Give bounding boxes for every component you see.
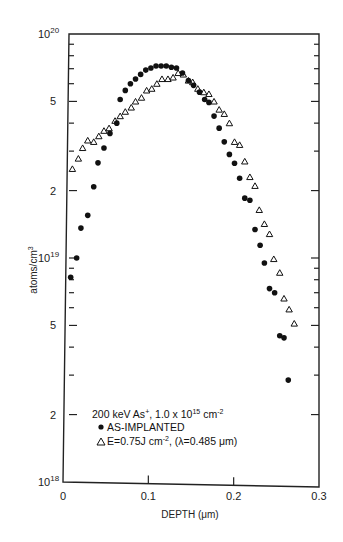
data-point-triangle (261, 221, 267, 227)
y-axis-title: atoms/cm3 (27, 246, 39, 293)
data-point-triangle (247, 174, 253, 180)
data-point-triangle (91, 139, 97, 145)
data-point-triangle (266, 231, 272, 237)
data-point-circle (128, 81, 134, 87)
dopant-depth-profile-chart: 1020521019521018 00.10.20.3 atoms/cm3 DE… (0, 0, 343, 542)
data-point-triangle (122, 109, 128, 115)
data-point-triangle (291, 321, 297, 327)
data-point-triangle (85, 137, 91, 143)
data-point-circle (221, 139, 227, 145)
x-tick-label: 0.1 (141, 490, 156, 502)
data-point-circle (143, 67, 149, 73)
data-point-circle (117, 97, 123, 103)
legend: 200 keV As+, 1.0 x 1015 cm-2 AS-IMPLANTE… (92, 408, 237, 447)
legend-laser-annealed: E=0.75J cm-2, (λ=0.485 μm) (107, 435, 237, 447)
x-tick-label: 0.2 (226, 490, 241, 502)
data-point-triangle (75, 156, 81, 162)
y-tick-label: 5 (50, 95, 56, 107)
series-as-implanted (68, 63, 291, 383)
y-tick-label: 1018 (38, 474, 60, 488)
legend-triangle-marker (97, 438, 105, 445)
data-point-triangle (271, 256, 277, 262)
data-point-circle (91, 184, 97, 190)
data-point-triangle (281, 295, 287, 301)
data-point-circle (138, 72, 144, 78)
data-point-triangle (138, 95, 144, 101)
data-point-triangle (132, 98, 138, 104)
data-point-triangle (256, 207, 262, 213)
data-point-triangle (128, 104, 134, 110)
y-tick-label: 1020 (38, 26, 60, 40)
data-point-circle (163, 63, 169, 69)
legend-header: 200 keV As+, 1.0 x 1015 cm-2 (92, 408, 223, 420)
data-point-triangle (211, 98, 217, 104)
data-point-triangle (277, 270, 283, 276)
data-point-circle (95, 160, 101, 166)
data-point-triangle (286, 306, 292, 312)
data-point-circle (169, 65, 175, 71)
y-tick-label: 5 (50, 319, 56, 331)
data-point-circle (257, 242, 263, 248)
data-point-circle (216, 125, 222, 131)
data-point-triangle (79, 145, 85, 151)
data-point-circle (285, 377, 291, 383)
data-point-circle (232, 160, 238, 166)
data-point-triangle (216, 107, 222, 113)
data-point-circle (74, 255, 80, 261)
y-tick-label: 1019 (38, 250, 60, 264)
data-point-circle (227, 152, 233, 158)
data-point-circle (158, 63, 164, 69)
x-tick-label: 0.3 (311, 490, 326, 502)
data-point-triangle (252, 183, 258, 189)
x-axis-ticks: 00.10.20.3 (60, 476, 327, 502)
data-point-circle (122, 88, 128, 94)
data-point-triangle (226, 120, 232, 126)
data-point-triangle (242, 158, 248, 164)
data-point-triangle (231, 139, 237, 145)
data-point-circle (85, 213, 91, 219)
legend-as-implanted: AS-IMPLANTED (107, 421, 185, 433)
data-point-circle (247, 197, 253, 203)
data-point-circle (78, 225, 84, 231)
data-point-triangle (69, 166, 75, 172)
data-point-circle (68, 275, 74, 281)
y-tick-label: 2 (50, 409, 56, 421)
data-point-circle (101, 145, 107, 151)
data-point-circle (272, 290, 278, 296)
data-point-circle (211, 113, 217, 119)
series-laser-annealed (69, 70, 297, 326)
data-point-triangle (106, 125, 112, 131)
data-point-circle (262, 260, 268, 266)
x-axis-title: DEPTH (μm) (161, 509, 218, 520)
data-point-circle (242, 195, 248, 201)
data-point-circle (148, 65, 154, 71)
data-point-circle (252, 227, 258, 233)
data-point-triangle (159, 76, 165, 82)
data-point-circle (133, 76, 139, 82)
legend-circle-marker (98, 424, 103, 429)
data-point-triangle (96, 133, 102, 139)
x-tick-label: 0 (60, 490, 66, 502)
data-point-circle (281, 335, 287, 341)
data-point-circle (107, 131, 113, 137)
y-tick-label: 2 (50, 185, 56, 197)
data-point-circle (267, 286, 273, 292)
data-point-circle (237, 175, 243, 181)
data-point-circle (153, 63, 159, 69)
